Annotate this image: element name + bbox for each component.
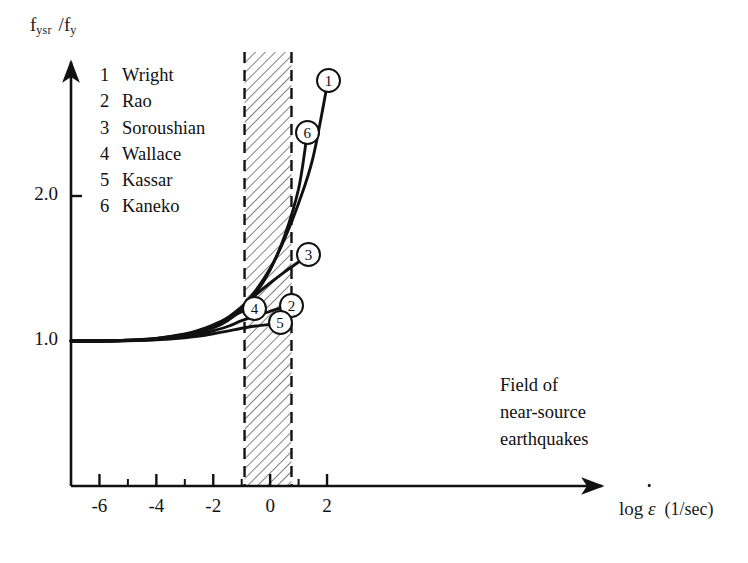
legend-item-label: Wallace	[122, 144, 181, 164]
field-note: Field of near-source earthquakes	[500, 372, 588, 453]
legend-item-label: Kassar	[122, 170, 172, 190]
curve-marker-1: 1	[316, 68, 341, 93]
near-source-band	[245, 52, 292, 486]
x-tick-label: -2	[191, 495, 235, 517]
x-tick-label: -4	[134, 495, 178, 517]
y-axis-label-sub-y: y	[70, 23, 76, 37]
x-tick-label: 2	[305, 495, 349, 517]
legend-item-kaneko: 6Kaneko	[100, 193, 205, 219]
y-tick-label: 2.0	[12, 183, 58, 205]
legend-item-wallace: 4Wallace	[100, 141, 205, 167]
field-note-line-2: near-source	[500, 399, 588, 426]
legend-item-kassar: 5Kassar	[100, 167, 205, 193]
x-axis-label-unit: (1/sec)	[665, 499, 714, 519]
curve-marker-5: 5	[268, 310, 293, 335]
x-axis-label-log: log	[619, 498, 643, 519]
curve-marker-4: 4	[242, 296, 267, 321]
legend-item-label: Kaneko	[122, 196, 180, 216]
legend-item-soroushian: 3Soroushian	[100, 115, 205, 141]
epsilon-dot-accent	[648, 484, 651, 487]
legend-item-number: 3	[100, 115, 122, 141]
figure-root: fysr/fy log ε(1/sec) 1Wright2Rao3Soroush…	[0, 0, 748, 563]
x-axis-label-epsilon-dot: ε	[643, 498, 655, 519]
x-tick-label: -6	[77, 495, 121, 517]
y-axis-ticks	[71, 196, 82, 341]
field-note-line-1: Field of	[500, 372, 588, 399]
field-note-line-3: earthquakes	[500, 426, 588, 453]
legend-item-rao: 2Rao	[100, 88, 205, 114]
legend: 1Wright2Rao3Soroushian4Wallace5Kassar6Ka…	[100, 62, 205, 220]
legend-item-label: Rao	[122, 91, 152, 111]
legend-item-number: 5	[100, 167, 122, 193]
y-tick-label: 1.0	[12, 328, 58, 350]
y-axis-label: fysr/fy	[30, 14, 76, 38]
legend-item-wright: 1Wright	[100, 62, 205, 88]
legend-item-number: 6	[100, 193, 122, 219]
curve-marker-6: 6	[295, 120, 320, 145]
curve-wallace	[71, 309, 253, 341]
legend-item-number: 2	[100, 88, 122, 114]
legend-item-number: 1	[100, 62, 122, 88]
legend-item-label: Soroushian	[122, 118, 205, 138]
y-axis-label-slash-f: /f	[59, 14, 71, 35]
legend-item-label: Wright	[122, 65, 174, 85]
curve-marker-3: 3	[296, 242, 321, 267]
x-axis-label: log ε(1/sec)	[619, 498, 714, 520]
x-tick-label: 0	[248, 495, 292, 517]
y-axis-label-sub-ysr: ysr	[36, 23, 51, 37]
legend-item-number: 4	[100, 141, 122, 167]
